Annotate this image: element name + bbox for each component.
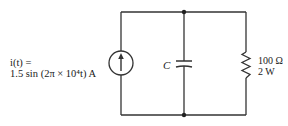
source-label: i(t) = 1.5 sin (2π × 10⁴t) A (10, 57, 96, 79)
resistor-resistance: 100 Ω (258, 55, 283, 66)
resistor (242, 52, 250, 78)
resistor-label: 100 Ω 2 W (258, 55, 283, 77)
junction-dot-bottom (182, 113, 186, 117)
current-source (109, 51, 133, 75)
capacitor-label: C (163, 60, 170, 71)
junction-dot-top (182, 10, 186, 14)
resistor-power: 2 W (258, 66, 283, 77)
source-label-line2: 1.5 sin (2π × 10⁴t) A (10, 68, 96, 79)
source-label-line1: i(t) = (10, 57, 96, 68)
capacitor (176, 61, 192, 67)
